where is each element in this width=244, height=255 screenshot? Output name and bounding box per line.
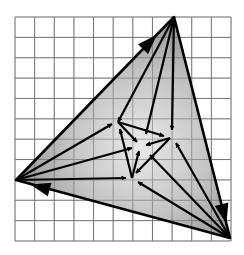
- vector-diagram: [0, 0, 244, 255]
- diagram-canvas: Vector diagram on a square grid: an oute…: [0, 0, 244, 255]
- arrowhead-edge-R-L: [30, 183, 51, 197]
